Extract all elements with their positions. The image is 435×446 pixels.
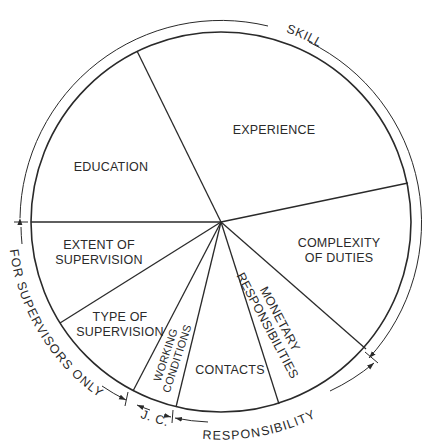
slice-label-complexity: COMPLEXITY OF DUTIES (298, 236, 381, 265)
slice-label-type-line2: SUPERVISION (76, 325, 163, 339)
slice-label-type: TYPE OF SUPERVISION (76, 310, 163, 339)
responsibility-arc-right (330, 363, 374, 391)
slice-label-extent-line1: EXTENT OF (63, 238, 135, 252)
slice-label-education: EDUCATION (74, 160, 149, 174)
slice-label-experience: EXPERIENCE (233, 123, 316, 137)
responsibility-arc-left (175, 418, 208, 422)
supervisors-arc-end (102, 386, 126, 400)
divider-education-experience (137, 51, 221, 222)
tick-jc-responsibility (172, 410, 173, 423)
jc-label: J. C. (139, 407, 171, 429)
divider-experience-complexity (221, 183, 408, 222)
slice-label-type-line1: TYPE OF (93, 310, 148, 324)
slice-label-complexity-line1: COMPLEXITY (298, 236, 381, 250)
slice-label-extent: EXTENT OF SUPERVISION (55, 238, 142, 267)
slice-label-contacts: CONTACTS (195, 363, 264, 377)
skill-arc-left (20, 20, 268, 218)
supervisors-arc-start (21, 227, 22, 244)
slice-label-complexity-line2: OF DUTIES (305, 251, 373, 265)
tick-responsibility-skill (365, 352, 378, 363)
slice-label-extent-line2: SUPERVISION (55, 253, 142, 267)
job-evaluation-pie-diagram: SKILL FOR SUPERVISORS ONLY RESPONSIBILIT… (0, 0, 435, 446)
tick-supervisors-jc (125, 392, 128, 406)
divider-contacts-working (176, 222, 221, 407)
slice-dividers (31, 51, 408, 407)
